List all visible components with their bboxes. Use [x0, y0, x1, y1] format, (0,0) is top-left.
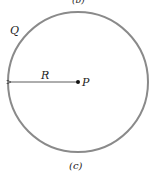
figure-caption: (c)	[69, 160, 83, 171]
center-point	[76, 80, 80, 84]
center-label: P	[81, 76, 90, 89]
radius-label: R	[40, 69, 49, 82]
diagram-canvas: (b) Q R P (c)	[0, 0, 151, 174]
charge-label: Q	[10, 24, 19, 37]
diagram-svg: (b) Q R P (c)	[0, 0, 151, 174]
top-caption-partial: (b)	[72, 0, 85, 5]
